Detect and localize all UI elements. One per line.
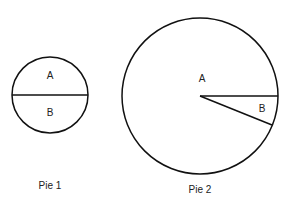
pie-1-label-a: A — [47, 70, 54, 81]
pie-charts: A B Pie 1 A B Pie 2 — [0, 0, 291, 202]
pie-1-label-b: B — [47, 107, 54, 118]
pie-2-title: Pie 2 — [189, 184, 212, 195]
pie-1-title: Pie 1 — [39, 180, 62, 191]
pie-2: A B Pie 2 — [122, 18, 278, 195]
pie-1: A B Pie 1 — [12, 57, 88, 191]
pie-2-label-a: A — [199, 73, 206, 84]
pie-2-label-b: B — [259, 103, 266, 114]
